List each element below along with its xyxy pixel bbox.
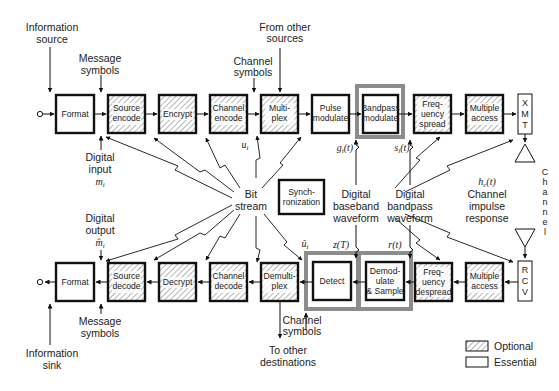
- block-label: Channel: [212, 103, 244, 113]
- block-label: Format: [61, 277, 89, 287]
- label-channel-symbols-rx: symbols: [283, 325, 322, 337]
- receive-chain: Format Source decode Decrypt Channel dec…: [26, 251, 532, 371]
- block-decrypt[interactable]: Decrypt: [159, 263, 196, 301]
- label-u-hat-i: ûi: [302, 238, 309, 251]
- label-r-t: r(t): [388, 239, 402, 251]
- source-node: [37, 111, 42, 116]
- block-label: Channel: [212, 271, 244, 281]
- block-label: ronization: [283, 197, 320, 207]
- block-label: Source: [113, 271, 140, 281]
- label-s-i-t: si(t): [394, 142, 410, 155]
- block-label: Format: [61, 109, 89, 119]
- block-demultiplex[interactable]: Demulti- plex: [261, 263, 298, 301]
- block-label: Encrypt: [163, 109, 193, 119]
- label-information-source: source: [36, 33, 68, 45]
- channel-vertical-label: C h a n n e l: [542, 167, 549, 237]
- block-label: Source: [113, 103, 140, 113]
- block-demodulate-sample[interactable]: Demod- ulate & Sample: [366, 262, 404, 300]
- block-label: decode: [214, 281, 242, 291]
- middle-section: Digital input mi Digital output m̂i Bit …: [85, 136, 513, 262]
- block-xmt[interactable]: X M T: [518, 94, 532, 134]
- block-label: Freq-: [423, 267, 444, 277]
- label-digital-baseband-waveform: Digital: [341, 188, 370, 200]
- label-u-i: ui: [242, 139, 249, 152]
- block-label: modulate: [313, 113, 349, 123]
- block-label: decode: [112, 281, 140, 291]
- rcv-letter: C: [522, 276, 529, 286]
- block-channel-decode[interactable]: Channel decode: [210, 263, 247, 301]
- svg-text:C: C: [542, 167, 549, 177]
- label-from-other-sources: sources: [267, 32, 304, 44]
- xmt-letter: T: [522, 120, 528, 130]
- label-digital-bandpass-waveform: Digital: [395, 188, 424, 200]
- label-channel-impulse-response: Channel: [467, 188, 506, 200]
- block-label: plex: [272, 113, 288, 123]
- svg-text:l: l: [544, 227, 546, 237]
- block-label: Synch-: [288, 187, 315, 197]
- block-frequency-despread[interactable]: Freq- uency despread: [415, 263, 452, 301]
- svg-text:n: n: [542, 197, 547, 207]
- block-source-encode[interactable]: Source encode: [108, 95, 145, 133]
- legend-label: Optional: [494, 340, 533, 352]
- label-channel-impulse-response: impulse: [469, 200, 505, 212]
- label-digital-output: output: [85, 224, 114, 236]
- block-label: Freq-: [422, 99, 443, 109]
- rcv-letter: R: [522, 265, 529, 275]
- label-z-T: z(T): [332, 239, 350, 251]
- label-bit-stream: stream: [235, 200, 267, 212]
- block-label: ulate: [376, 276, 395, 286]
- label-digital-baseband-waveform: baseband: [333, 200, 379, 212]
- block-multiple-access-tx[interactable]: Multiple access: [466, 95, 503, 133]
- label-digital-bandpass-waveform: bandpass: [387, 200, 433, 212]
- block-label: Demod-: [370, 266, 401, 276]
- svg-text:n: n: [542, 207, 547, 217]
- diagram-canvas: Format Source encode Encrypt Channel enc…: [0, 0, 559, 391]
- label-digital-baseband-waveform: waveform: [332, 212, 379, 224]
- svg-text:e: e: [542, 217, 547, 227]
- block-label: spread: [419, 119, 445, 129]
- block-pulse-modulate[interactable]: Pulse modulate: [312, 95, 349, 133]
- svg-text:h: h: [542, 177, 547, 187]
- label-message-symbols: Message: [79, 52, 122, 64]
- block-label: uency: [421, 109, 445, 119]
- block-source-decode[interactable]: Source decode: [108, 263, 145, 301]
- block-label: uency: [422, 277, 446, 287]
- transmit-antenna-icon: [515, 144, 535, 162]
- block-label: modulate: [363, 113, 399, 123]
- block-label: access: [471, 281, 498, 291]
- block-multiplex[interactable]: Multi- plex: [261, 95, 298, 133]
- block-label: Demulti-: [264, 271, 296, 281]
- label-m-hat-i: m̂i: [95, 237, 104, 250]
- block-label: Decrypt: [163, 277, 193, 287]
- label-message-symbols: symbols: [81, 64, 120, 76]
- rcv-letter: V: [522, 287, 528, 297]
- label-message-symbols-rx: symbols: [81, 327, 120, 339]
- block-frequency-spread[interactable]: Freq- uency spread: [414, 95, 451, 133]
- block-rcv[interactable]: R C V: [518, 261, 532, 301]
- block-label: despread: [416, 287, 452, 297]
- svg-text:a: a: [542, 187, 547, 197]
- block-label: encode: [112, 113, 140, 123]
- block-format-rx[interactable]: Format: [56, 263, 94, 301]
- block-multiple-access-rx[interactable]: Multiple access: [466, 263, 503, 301]
- legend-label: Essential: [494, 356, 537, 368]
- label-channel-symbols: symbols: [234, 66, 273, 78]
- label-information-source: Information: [26, 21, 79, 33]
- block-bandpass-modulate[interactable]: Bandpass modulate: [361, 95, 399, 133]
- block-encrypt[interactable]: Encrypt: [159, 95, 196, 133]
- block-channel-encode[interactable]: Channel encode: [210, 95, 247, 133]
- block-label: encode: [214, 113, 242, 123]
- label-information-sink: sink: [43, 359, 62, 371]
- label-channel-impulse-response: response: [465, 212, 508, 224]
- block-detect[interactable]: Detect: [313, 262, 351, 300]
- block-label: Detect: [320, 276, 345, 286]
- block-synchronization[interactable]: Synch- ronization: [279, 180, 324, 214]
- block-label: Multiple: [470, 271, 500, 281]
- label-digital-output: Digital: [85, 212, 114, 224]
- block-format-tx[interactable]: Format: [56, 95, 94, 133]
- block-label: & Sample: [366, 286, 403, 296]
- xmt-letter: M: [521, 109, 529, 119]
- legend-item-essential: Essential: [466, 356, 537, 368]
- legend-item-optional: Optional: [466, 340, 533, 352]
- block-label: access: [471, 113, 498, 123]
